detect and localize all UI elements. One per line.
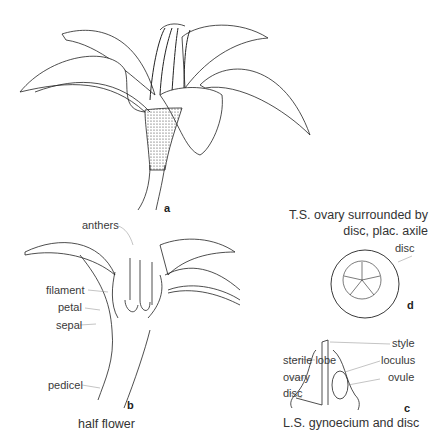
caption-ts-ovary-line1: T.S. ovary surrounded by <box>283 208 428 223</box>
label-disc-d: disc <box>395 243 415 254</box>
figure-letter-b: b <box>127 400 134 411</box>
label-disc-c: disc <box>283 388 303 399</box>
label-sepal: sepal <box>56 320 82 331</box>
receptacle <box>145 108 182 170</box>
label-ovary: ovary <box>283 372 310 383</box>
label-sterile-lobe: sterile lobe <box>283 355 336 366</box>
label-anthers: anthers <box>82 220 119 231</box>
figure-letter-c: c <box>404 403 410 414</box>
figure-letter-d: d <box>407 300 414 311</box>
petal <box>25 243 115 275</box>
figure-letter-a: a <box>164 203 170 214</box>
label-petal: petal <box>58 302 82 313</box>
figure-a-whole-flower <box>20 24 310 210</box>
label-style: style <box>392 338 415 349</box>
label-filament: filament <box>46 285 85 296</box>
label-pedicel: pedicel <box>48 380 83 391</box>
petal <box>160 239 235 275</box>
caption-ls-gynoecium: L.S. gynoecium and disc <box>283 416 419 431</box>
pedicel <box>138 165 165 210</box>
figure-d-ts-ovary <box>331 250 399 318</box>
caption-ts-ovary-line2: disc, plac. axile <box>283 224 428 239</box>
caption-half-flower: half flower <box>78 417 135 432</box>
label-ovule: ovule <box>388 372 414 383</box>
label-loculus: loculus <box>381 355 415 366</box>
